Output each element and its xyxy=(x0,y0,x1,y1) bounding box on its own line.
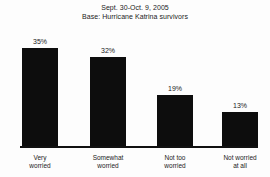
plot-area: 35% Very worried 32% Somewhat worried 19… xyxy=(0,0,270,177)
bar-value-label-0: 35% xyxy=(14,38,66,45)
bar-value-label-2: 19% xyxy=(149,85,201,92)
chart-container: Sept. 30-Oct. 9, 2005 Base: Hurricane Ka… xyxy=(0,0,270,177)
bar-group-2: 19% Not too worried xyxy=(157,0,193,177)
bar-somewhat-worried[interactable] xyxy=(90,57,126,146)
category-label-3: Not worried at all xyxy=(208,154,270,170)
category-label-3-line-2: at all xyxy=(208,162,270,170)
bar-not-too-worried[interactable] xyxy=(157,95,193,146)
category-label-1-line-2: worried xyxy=(76,162,140,170)
bar-group-1: 32% Somewhat worried xyxy=(90,0,126,177)
bar-group-3: 13% Not worried at all xyxy=(222,0,258,177)
category-label-3-line-1: Not worried xyxy=(208,154,270,162)
bar-very-worried[interactable] xyxy=(22,48,58,146)
bar-value-label-1: 32% xyxy=(82,47,134,54)
bar-group-0: 35% Very worried xyxy=(22,0,58,177)
category-label-0-line-2: worried xyxy=(8,162,72,170)
category-label-0-line-1: Very xyxy=(8,154,72,162)
category-label-1-line-1: Somewhat xyxy=(76,154,140,162)
category-label-0: Very worried xyxy=(8,154,72,170)
bar-not-worried-at-all[interactable] xyxy=(222,112,258,146)
category-label-2-line-1: Not too xyxy=(143,154,207,162)
category-label-2: Not too worried xyxy=(143,154,207,170)
bar-value-label-3: 13% xyxy=(214,102,266,109)
category-label-2-line-2: worried xyxy=(143,162,207,170)
category-label-1: Somewhat worried xyxy=(76,154,140,170)
